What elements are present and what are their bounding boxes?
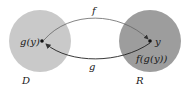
point-g-y [40,39,44,43]
label-y: y [154,36,161,47]
inverse-function-diagram: g(y) y f(g(y)) f g D R [0,0,192,90]
diagram-canvas: g(y) y f(g(y)) f g D R [0,0,192,90]
set-d-circle [9,10,71,72]
label-g-y: g(y) [20,36,40,47]
label-f: f [91,5,98,16]
label-set-d: D [21,75,30,86]
label-g: g [89,61,95,72]
point-y [148,39,152,43]
label-set-r: R [135,75,144,86]
label-f-g-y: f(g(y)) [135,53,167,64]
